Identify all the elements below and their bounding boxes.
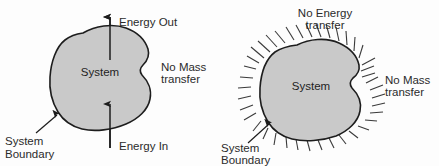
right-system-boundary-label-line1: System [221,142,259,154]
energy-in-label: Energy In [119,140,168,152]
energy-out-label: Energy Out [119,16,178,28]
left-system-label: System [81,66,119,78]
left-no-mass-transfer-label-line1: No Mass [161,61,207,73]
no-energy-transfer-label-line1: No Energy [298,7,353,19]
left-system-boundary-leader [36,115,57,133]
right-no-mass-transfer-label-line1: No Mass [385,74,431,86]
thermodynamics-system-diagram: System Energy Out Energy In No Mass tran… [0,0,439,166]
left-system-boundary-label-line1: System [5,135,43,147]
figure-canvas: System Energy Out Energy In No Mass tran… [0,0,439,166]
left-system-boundary-label-line2: Boundary [5,148,54,160]
right-no-mass-transfer-label-line2: transfer [385,86,424,98]
left-no-mass-transfer-label-line2: transfer [161,73,200,85]
left-diagram-group: System Energy Out Energy In No Mass tran… [5,16,207,160]
right-diagram-group: System No Energy transfer No Mass transf… [221,7,431,166]
right-system-label: System [292,80,330,92]
no-energy-transfer-label-line2: transfer [306,19,345,31]
right-system-boundary-label-line2: Boundary [221,154,270,166]
